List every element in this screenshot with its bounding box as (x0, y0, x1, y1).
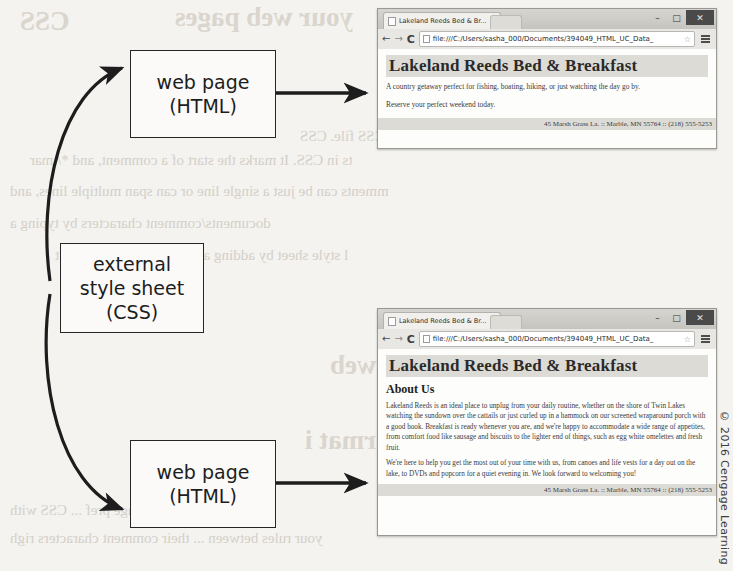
minimize-icon[interactable]: – (648, 311, 667, 325)
menu-hamburger-icon[interactable] (699, 35, 712, 42)
new-tab-button[interactable] (490, 15, 522, 29)
bookmark-star-icon[interactable]: ☆ (684, 335, 691, 344)
textbook-figure-page: CSSyour web pagesto your own devismall C… (0, 0, 733, 571)
close-icon[interactable]: ✕ (686, 310, 714, 325)
browser-toolbar[interactable]: ← → C file:///C:/Users/sasha_000/Documen… (378, 328, 716, 349)
browser-tab[interactable]: Lakeland Reeds Bed & Br... × (383, 12, 501, 29)
browser-viewport-bottom: Lakeland Reeds Bed & Breakfast About Us … (378, 349, 716, 536)
browser-window-top[interactable]: Lakeland Reeds Bed & Br... × – □ ✕ ← → C… (377, 8, 717, 149)
reload-icon[interactable]: C (407, 33, 415, 46)
new-tab-button[interactable] (490, 315, 522, 329)
url-text: file:///C:/Users/sasha_000/Documents/394… (433, 35, 653, 43)
site-footer: 45 Marsh Grass La. :: Marble, MN 55764 :… (378, 118, 716, 130)
browser-window-bottom[interactable]: Lakeland Reeds Bed & Br... × – □ ✕ ← → C… (377, 308, 717, 536)
site-heading: Lakeland Reeds Bed & Breakfast (386, 355, 708, 377)
box-label-line1: web page (157, 460, 250, 484)
box-label-line3: (CSS) (106, 300, 158, 324)
menu-hamburger-icon[interactable] (699, 335, 712, 342)
document-icon (423, 335, 430, 343)
maximize-icon[interactable]: □ (667, 11, 686, 25)
maximize-icon[interactable]: □ (667, 311, 686, 325)
forward-arrow-icon[interactable]: → (394, 334, 402, 344)
browser-toolbar[interactable]: ← → C file:///C:/Users/sasha_000/Documen… (378, 28, 716, 49)
tab-title: Lakeland Reeds Bed & Br... (399, 317, 487, 325)
window-controls[interactable]: – □ ✕ (648, 310, 714, 325)
window-controls[interactable]: – □ ✕ (648, 10, 714, 25)
page-favicon-icon (388, 17, 396, 26)
minimize-icon[interactable]: – (648, 11, 667, 25)
browser-titlebar[interactable]: Lakeland Reeds Bed & Br... × – □ ✕ (378, 9, 716, 28)
forward-arrow-icon[interactable]: → (394, 34, 402, 44)
site-subheading: About Us (386, 382, 708, 397)
box-label-line1: web page (157, 70, 250, 94)
browser-tab[interactable]: Lakeland Reeds Bed & Br... × (383, 312, 501, 329)
site-paragraph-2: We're here to help you get the most out … (386, 458, 708, 479)
address-bar[interactable]: file:///C:/Users/sasha_000/Documents/394… (419, 31, 695, 47)
site-heading: Lakeland Reeds Bed & Breakfast (386, 55, 708, 77)
box-label-line2: (HTML) (169, 94, 237, 118)
browser-viewport-top: Lakeland Reeds Bed & Breakfast A country… (378, 49, 716, 149)
box-label-line2: style sheet (80, 276, 184, 300)
diagram-box-external-style-sheet: external style sheet (CSS) (60, 243, 204, 333)
diagram-box-web-page-top: web page (HTML) (130, 50, 276, 138)
site-paragraph-2: Reserve your perfect weekend today. (386, 100, 708, 111)
bookmark-star-icon[interactable]: ☆ (684, 35, 691, 44)
address-bar[interactable]: file:///C:/Users/sasha_000/Documents/394… (419, 331, 695, 347)
page-favicon-icon (388, 317, 396, 326)
site-paragraph-1: Lakeland Reeds is an ideal place to unpl… (386, 401, 708, 453)
tab-title: Lakeland Reeds Bed & Br... (399, 17, 487, 25)
back-arrow-icon[interactable]: ← (382, 34, 390, 44)
site-paragraph-1: A country getaway perfect for fishing, b… (386, 82, 708, 93)
diagram-box-web-page-bottom: web page (HTML) (130, 440, 276, 528)
browser-titlebar[interactable]: Lakeland Reeds Bed & Br... × – □ ✕ (378, 309, 716, 328)
box-label-line1: external (93, 252, 171, 276)
url-text: file:///C:/Users/sasha_000/Documents/394… (433, 335, 653, 343)
box-label-line2: (HTML) (169, 484, 237, 508)
close-icon[interactable]: ✕ (686, 10, 714, 25)
reload-icon[interactable]: C (407, 333, 415, 346)
document-icon (423, 35, 430, 43)
site-footer: 45 Marsh Grass La. :: Marble, MN 55764 :… (378, 484, 716, 496)
back-arrow-icon[interactable]: ← (382, 334, 390, 344)
copyright-credit: © 2016 Cengage Learning (718, 410, 731, 565)
